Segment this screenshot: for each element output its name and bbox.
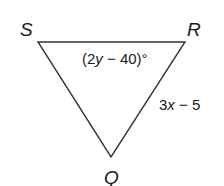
triangle-diagram: S R Q (2y − 40)° 3x − 5 [0, 0, 224, 186]
vertex-label-r: R [187, 19, 201, 40]
vertex-label-q: Q [104, 167, 119, 186]
angle-r-label-open: (2 [82, 50, 95, 67]
angle-r-label-rest: − 40)° [103, 50, 148, 67]
side-rq-label-coef: 3 [159, 96, 167, 113]
angle-r-label: (2y − 40)° [82, 50, 148, 67]
vertex-label-s: S [20, 19, 33, 40]
side-rq-label: 3x − 5 [159, 96, 200, 113]
side-rq-label-rest: − 5 [175, 96, 200, 113]
